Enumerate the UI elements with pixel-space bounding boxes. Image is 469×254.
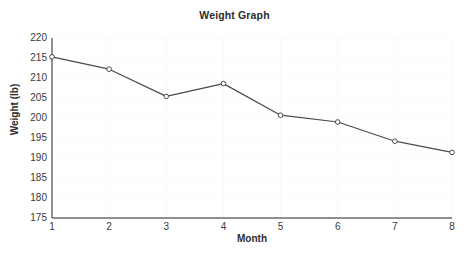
gridlines bbox=[52, 38, 452, 218]
y-tick-label: 215 bbox=[19, 53, 47, 63]
y-tick-label: 205 bbox=[19, 93, 47, 103]
data-point-marker bbox=[221, 81, 226, 86]
axis-lines bbox=[52, 38, 452, 218]
data-point-marker bbox=[50, 55, 55, 60]
x-tick-label: 8 bbox=[440, 222, 464, 232]
data-point-marker bbox=[450, 150, 455, 155]
y-tick-label: 220 bbox=[19, 33, 47, 43]
data-point-marker bbox=[278, 113, 283, 118]
weight-graph-chart: Weight Graph Weight (lb) Month 220215210… bbox=[0, 0, 469, 254]
data-point-marker bbox=[335, 120, 340, 125]
data-point-marker bbox=[164, 94, 169, 99]
plot-area bbox=[0, 0, 469, 254]
x-tick-label: 5 bbox=[269, 222, 293, 232]
y-tick-label: 200 bbox=[19, 113, 47, 123]
y-tick-label: 185 bbox=[19, 173, 47, 183]
y-tick-label: 195 bbox=[19, 133, 47, 143]
x-tick-label: 7 bbox=[383, 222, 407, 232]
x-tick-label: 1 bbox=[40, 222, 64, 232]
page-edge-artifact bbox=[0, 247, 469, 254]
x-tick-label: 4 bbox=[211, 222, 235, 232]
y-tick-label: 210 bbox=[19, 73, 47, 83]
x-tick-label: 3 bbox=[154, 222, 178, 232]
data-point-marker bbox=[107, 67, 112, 72]
y-tick-label: 190 bbox=[19, 153, 47, 163]
y-tick-label: 180 bbox=[19, 193, 47, 203]
data-point-markers bbox=[50, 55, 455, 155]
data-point-marker bbox=[393, 139, 398, 144]
x-tick-label: 2 bbox=[97, 222, 121, 232]
x-tick-label: 6 bbox=[326, 222, 350, 232]
